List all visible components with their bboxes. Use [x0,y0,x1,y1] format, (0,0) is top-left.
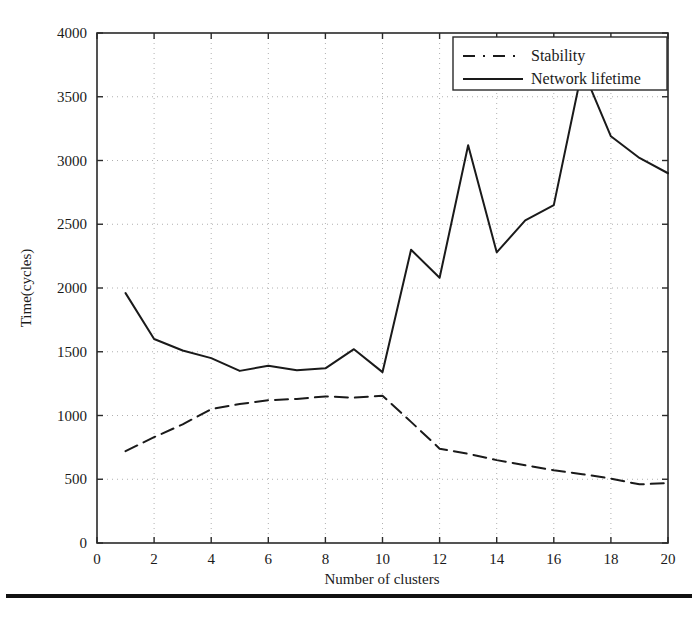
x-tick-label: 6 [265,551,273,567]
y-tick-label: 1500 [57,344,87,360]
y-axis-title: Time(cycles) [18,249,35,328]
x-tick-label: 16 [546,551,562,567]
legend-label-network-lifetime: Network lifetime [531,70,641,87]
x-tick-label: 0 [93,551,101,567]
figure-container: 02468101214161820 0500100015002000250030… [0,0,698,623]
chart-legend: Stability Network lifetime [453,37,667,90]
y-tick-label: 1000 [57,408,87,424]
y-tick-label: 2000 [57,280,87,296]
footer-caption-fragment [0,606,698,623]
y-axis-tick-labels: 05001000150020002500300035004000 [57,25,87,551]
x-axis-title: Number of clusters [325,571,440,587]
y-tick-label: 0 [80,535,88,551]
x-axis-tick-labels: 02468101214161820 [93,551,675,567]
x-tick-label: 10 [375,551,390,567]
footer-divider-rule [6,594,692,598]
y-tick-label: 2500 [57,216,87,232]
x-tick-label: 4 [207,551,215,567]
x-tick-label: 12 [432,551,447,567]
x-tick-label: 14 [489,551,505,567]
y-tick-label: 3500 [57,89,87,105]
x-tick-label: 8 [322,551,330,567]
y-tick-label: 4000 [57,25,87,41]
y-tick-label: 3000 [57,153,87,169]
y-tick-label: 500 [65,471,88,487]
x-tick-label: 18 [603,551,618,567]
line-chart: 02468101214161820 0500100015002000250030… [0,0,698,600]
x-tick-label: 20 [661,551,676,567]
x-tick-label: 2 [150,551,158,567]
legend-label-stability: Stability [531,47,585,65]
